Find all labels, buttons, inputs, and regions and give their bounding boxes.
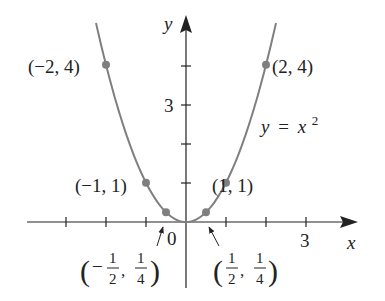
function-lhs: y <box>259 116 270 137</box>
fraction-x-denominator: 2 <box>109 271 117 287</box>
data-point <box>262 61 270 69</box>
y-axis-label: y <box>162 13 173 34</box>
pointer-arrow-icon <box>209 227 219 246</box>
function-label: y = x 2 <box>259 113 318 137</box>
fraction-y-denominator: 4 <box>137 271 145 287</box>
y-axis <box>180 15 192 288</box>
parabola-chart: y x 0 3 3 y = x 2 (−2, 4) (−1, 1) (1, 1)… <box>0 0 385 301</box>
function-exponent: 2 <box>312 113 319 128</box>
fraction-y-numerator: 1 <box>137 250 145 266</box>
data-point <box>102 61 110 69</box>
function-base: x <box>297 116 307 137</box>
point-label-neg-half-quarter: ( − 1 2 , 1 4 ) <box>80 250 160 288</box>
function-eq: = <box>278 116 289 137</box>
point-label-neg2-4: (−2, 4) <box>28 56 80 78</box>
svg-text:,: , <box>121 261 125 280</box>
data-point <box>162 208 170 216</box>
data-point <box>202 208 210 216</box>
x-tick-label-3: 3 <box>300 230 310 251</box>
fraction-x-denominator: 2 <box>228 271 236 287</box>
svg-text:): ) <box>268 254 278 288</box>
origin-label: 0 <box>167 228 177 249</box>
fraction-y-denominator: 4 <box>256 271 264 287</box>
svg-text:(: ( <box>213 254 223 288</box>
pointer-arrow-icon <box>157 227 163 246</box>
fraction-x-numerator: 1 <box>228 250 236 266</box>
point-label-half-quarter: ( 1 2 , 1 4 ) <box>213 250 278 288</box>
fraction-x-numerator: 1 <box>109 250 117 266</box>
svg-text:y = x 2: y = x 2 <box>259 113 318 137</box>
data-point <box>142 179 150 187</box>
fraction-sign: − <box>92 256 103 277</box>
point-label-1-1: (1, 1) <box>212 175 253 197</box>
point-label-neg1-1: (−1, 1) <box>75 175 127 197</box>
fraction-y-numerator: 1 <box>256 250 264 266</box>
x-axis-label: x <box>346 232 356 253</box>
point-label-2-4: (2, 4) <box>272 56 313 78</box>
svg-text:(: ( <box>80 254 90 288</box>
svg-text:,: , <box>240 261 244 280</box>
svg-text:): ) <box>150 254 160 288</box>
y-tick-label-3: 3 <box>164 95 174 116</box>
